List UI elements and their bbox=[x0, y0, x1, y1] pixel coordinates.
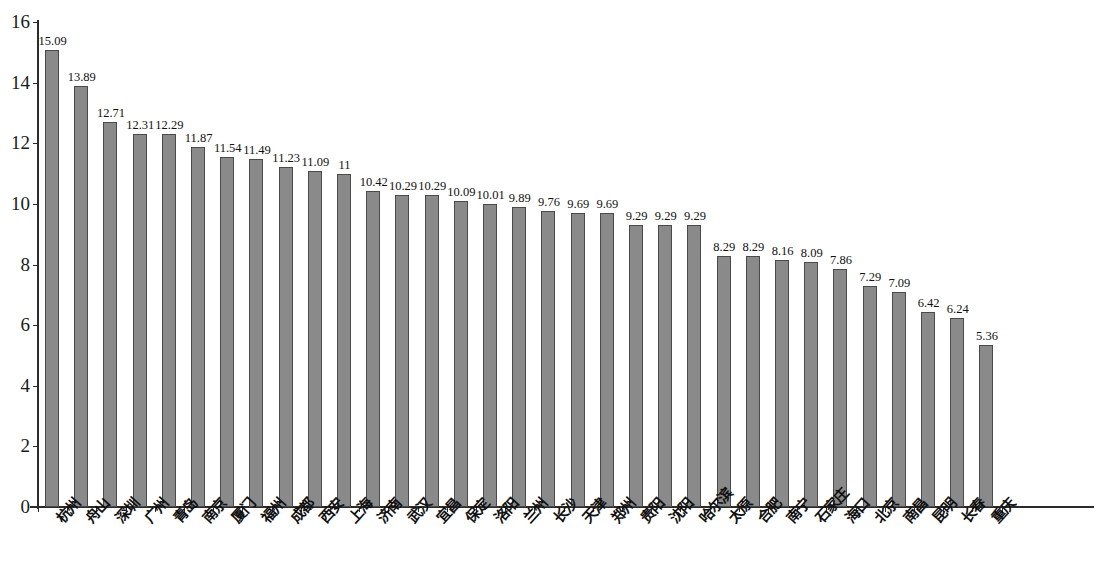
y-tick-label: 8 bbox=[0, 255, 30, 274]
bar-column[interactable]: 10.01 bbox=[476, 22, 505, 507]
bar[interactable] bbox=[483, 204, 497, 507]
bar[interactable] bbox=[571, 213, 585, 507]
y-tick-label: 16 bbox=[0, 12, 30, 31]
bar[interactable] bbox=[541, 211, 555, 507]
bar-column[interactable]: 9.29 bbox=[651, 22, 680, 507]
bar-value-label: 11.49 bbox=[243, 144, 271, 157]
bar-value-label: 9.29 bbox=[626, 210, 648, 223]
bar-value-label: 11.54 bbox=[214, 142, 242, 155]
bar-column[interactable]: 7.09 bbox=[885, 22, 914, 507]
bar[interactable] bbox=[512, 207, 526, 507]
bar[interactable] bbox=[921, 312, 935, 507]
bar-column[interactable]: 6.24 bbox=[943, 22, 972, 507]
bar-column[interactable]: 13.89 bbox=[67, 22, 96, 507]
bar-column[interactable]: 9.76 bbox=[534, 22, 563, 507]
bar-value-label: 10.01 bbox=[477, 189, 505, 202]
bar-value-label: 6.42 bbox=[918, 297, 940, 310]
bar[interactable] bbox=[804, 262, 818, 507]
bar-column[interactable]: 8.29 bbox=[739, 22, 768, 507]
bar-chart: 0246810121416 15.0913.8912.7112.3112.291… bbox=[0, 0, 1100, 571]
bar-column[interactable]: 9.69 bbox=[593, 22, 622, 507]
bar-value-label: 8.29 bbox=[713, 241, 735, 254]
bar[interactable] bbox=[833, 269, 847, 507]
bar-column[interactable]: 15.09 bbox=[38, 22, 67, 507]
bar-column[interactable]: 7.86 bbox=[826, 22, 855, 507]
bar[interactable] bbox=[775, 260, 789, 507]
bar[interactable] bbox=[892, 292, 906, 507]
bar-column[interactable]: 5.36 bbox=[972, 22, 1001, 507]
x-tick-mark bbox=[38, 507, 39, 512]
bar-column[interactable]: 11.49 bbox=[242, 22, 271, 507]
bar-column[interactable]: 6.42 bbox=[914, 22, 943, 507]
bar[interactable] bbox=[366, 191, 380, 507]
bar-column[interactable]: 8.09 bbox=[797, 22, 826, 507]
y-axis-ticks: 0246810121416 bbox=[0, 0, 34, 571]
bar[interactable] bbox=[162, 134, 176, 507]
bar-column[interactable]: 9.29 bbox=[622, 22, 651, 507]
bar-column[interactable]: 10.09 bbox=[447, 22, 476, 507]
bar-column[interactable]: 10.29 bbox=[388, 22, 417, 507]
bar[interactable] bbox=[979, 345, 993, 507]
bar-column[interactable]: 8.16 bbox=[768, 22, 797, 507]
bar-column[interactable]: 12.29 bbox=[155, 22, 184, 507]
y-tick-label: 4 bbox=[0, 376, 30, 395]
bar[interactable] bbox=[395, 195, 409, 507]
bar[interactable] bbox=[600, 213, 614, 507]
y-tick-label: 14 bbox=[0, 73, 30, 92]
bar-value-label: 8.29 bbox=[742, 241, 764, 254]
bar-column[interactable]: 9.69 bbox=[564, 22, 593, 507]
bar[interactable] bbox=[191, 147, 205, 507]
bar-value-label: 11.23 bbox=[272, 152, 300, 165]
bar[interactable] bbox=[220, 157, 234, 507]
bar[interactable] bbox=[74, 86, 88, 507]
bar-value-label: 12.71 bbox=[97, 107, 125, 120]
bar[interactable] bbox=[746, 256, 760, 507]
bar-column[interactable]: 8.29 bbox=[710, 22, 739, 507]
bar-column[interactable]: 12.31 bbox=[126, 22, 155, 507]
bar-value-label: 7.86 bbox=[830, 254, 852, 267]
bar-value-label: 10.09 bbox=[447, 186, 475, 199]
bar-value-label: 10.29 bbox=[389, 180, 417, 193]
bar-column[interactable]: 11.54 bbox=[213, 22, 242, 507]
bar[interactable] bbox=[425, 195, 439, 507]
y-tick-label: 0 bbox=[0, 497, 30, 516]
bar-column[interactable]: 11.87 bbox=[184, 22, 213, 507]
bar-column[interactable]: 11.09 bbox=[301, 22, 330, 507]
bar[interactable] bbox=[45, 50, 59, 507]
bar[interactable] bbox=[950, 318, 964, 507]
bar-value-label: 13.89 bbox=[68, 71, 96, 84]
bar-column[interactable]: 11.23 bbox=[272, 22, 301, 507]
bar[interactable] bbox=[629, 225, 643, 507]
bar-column[interactable]: 9.29 bbox=[680, 22, 709, 507]
bar[interactable] bbox=[249, 159, 263, 507]
bar-column[interactable]: 10.42 bbox=[359, 22, 388, 507]
bar[interactable] bbox=[717, 256, 731, 507]
bar-column[interactable]: 10.29 bbox=[418, 22, 447, 507]
bar-value-label: 9.29 bbox=[655, 210, 677, 223]
bar-column[interactable]: 11 bbox=[330, 22, 359, 507]
bar-value-label: 11 bbox=[339, 159, 351, 172]
bar-value-label: 8.16 bbox=[772, 245, 794, 258]
bar-value-label: 10.42 bbox=[360, 176, 388, 189]
bar[interactable] bbox=[337, 174, 351, 507]
bar[interactable] bbox=[103, 122, 117, 507]
bar-column[interactable]: 12.71 bbox=[96, 22, 125, 507]
bar[interactable] bbox=[863, 286, 877, 507]
bar[interactable] bbox=[133, 134, 147, 507]
bar-value-label: 12.29 bbox=[155, 119, 183, 132]
bar[interactable] bbox=[658, 225, 672, 507]
bar[interactable] bbox=[279, 167, 293, 507]
bar-value-label: 5.36 bbox=[976, 330, 998, 343]
bar-value-label: 6.24 bbox=[947, 303, 969, 316]
y-tick-label: 12 bbox=[0, 133, 30, 152]
bar-value-label: 9.69 bbox=[596, 198, 618, 211]
bar-value-label: 7.29 bbox=[859, 271, 881, 284]
bar-value-label: 9.76 bbox=[538, 196, 560, 209]
bar-column[interactable]: 9.89 bbox=[505, 22, 534, 507]
bar[interactable] bbox=[454, 201, 468, 507]
bar[interactable] bbox=[687, 225, 701, 507]
bar-value-label: 7.09 bbox=[888, 277, 910, 290]
bar[interactable] bbox=[308, 171, 322, 507]
bar-value-label: 9.29 bbox=[684, 210, 706, 223]
bar-column[interactable]: 7.29 bbox=[856, 22, 885, 507]
